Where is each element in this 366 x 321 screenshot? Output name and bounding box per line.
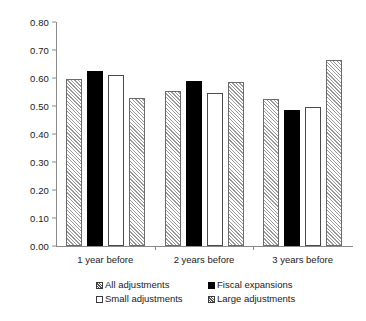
chart-legend: All adjustmentsFiscal expansionsSmall ad…: [96, 278, 346, 306]
legend-item-label: Fiscal expansions: [217, 280, 293, 290]
y-axis-tick-mark: [52, 50, 56, 51]
bar: [129, 98, 145, 246]
plot-area: [56, 22, 352, 246]
y-axis-tick-mark: [52, 218, 56, 219]
hatch-swatch: [96, 282, 103, 289]
x-axis-tick-mark: [253, 246, 254, 250]
y-axis-tick-mark: [52, 22, 56, 23]
x-axis-tick-mark: [155, 246, 156, 250]
bar: [326, 60, 342, 246]
y-axis-tick-mark: [52, 190, 56, 191]
bar: [263, 99, 279, 246]
open-swatch: [96, 296, 103, 303]
x-axis-category-label: 3 years before: [272, 254, 333, 265]
legend-item: Small adjustments: [96, 294, 208, 304]
x-axis-line: [56, 246, 353, 247]
bar: [87, 71, 103, 246]
y-axis-tick-mark: [52, 134, 56, 135]
bar-chart: 0.800.700.600.500.400.300.200.100.00 1 y…: [0, 0, 366, 321]
legend-item-label: All adjustments: [105, 280, 169, 290]
legend-item-label: Large adjustments: [217, 294, 295, 304]
bar: [186, 81, 202, 246]
bar: [165, 91, 181, 246]
x-axis-category-label: 1 year before: [77, 254, 133, 265]
legend-item: All adjustments: [96, 280, 208, 290]
y-axis-tick-mark: [52, 78, 56, 79]
legend-item: Large adjustments: [208, 294, 336, 304]
bar: [284, 110, 300, 246]
y-axis-tick-mark: [52, 106, 56, 107]
solid-swatch: [208, 282, 215, 289]
legend-item-label: Small adjustments: [105, 294, 183, 304]
bar: [207, 93, 223, 246]
hatch-swatch: [208, 296, 215, 303]
legend-item: Fiscal expansions: [208, 280, 336, 290]
y-axis-tick-mark: [52, 246, 56, 247]
bar: [66, 79, 82, 246]
x-axis-category-label: 2 years before: [174, 254, 235, 265]
bar: [305, 107, 321, 246]
bar: [108, 75, 124, 246]
bar: [228, 82, 244, 246]
y-axis-tick-mark: [52, 162, 56, 163]
